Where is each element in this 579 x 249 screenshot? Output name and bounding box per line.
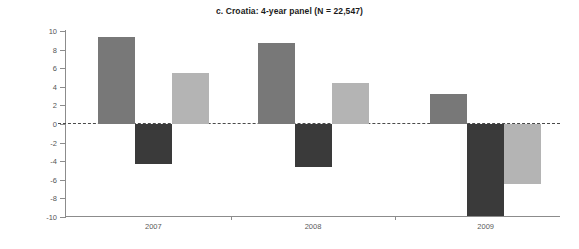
y-tick-mark bbox=[60, 87, 66, 88]
bar bbox=[430, 94, 467, 124]
chart-container: c. Croatia: 4-year panel (N = 22,547) Pe… bbox=[0, 0, 579, 249]
y-tick-label: -10 bbox=[30, 213, 57, 222]
y-tick-mark bbox=[60, 143, 66, 144]
bar bbox=[135, 124, 172, 164]
y-tick-mark bbox=[60, 124, 66, 125]
y-tick-label: 2 bbox=[30, 101, 57, 110]
y-tick-mark bbox=[60, 161, 66, 162]
y-tick-label: -8 bbox=[30, 194, 57, 203]
bar bbox=[172, 73, 209, 124]
y-tick-label: 6 bbox=[30, 64, 57, 73]
y-axis-title: Percent bbox=[0, 80, 1, 108]
x-tick-label: 2009 bbox=[477, 222, 494, 231]
x-tick-label: 2008 bbox=[305, 222, 322, 231]
bar bbox=[504, 124, 541, 184]
y-tick-mark bbox=[60, 180, 66, 181]
x-group-separator bbox=[231, 216, 232, 220]
y-tick-label: -2 bbox=[30, 138, 57, 147]
x-tick-label: 2007 bbox=[145, 222, 162, 231]
y-tick-label: -6 bbox=[30, 175, 57, 184]
x-axis-line bbox=[65, 216, 560, 217]
y-tick-mark bbox=[60, 31, 66, 32]
y-tick-mark bbox=[60, 217, 66, 218]
y-tick-label: 0 bbox=[30, 120, 57, 129]
y-tick-mark bbox=[60, 68, 66, 69]
y-tick-mark bbox=[60, 105, 66, 106]
y-tick-label: 8 bbox=[30, 45, 57, 54]
y-tick-label: 10 bbox=[30, 27, 57, 36]
y-tick-label: -4 bbox=[30, 157, 57, 166]
chart-title: c. Croatia: 4-year panel (N = 22,547) bbox=[0, 6, 579, 16]
y-tick-mark bbox=[60, 50, 66, 51]
x-group-separator bbox=[395, 216, 396, 220]
bar bbox=[258, 43, 295, 124]
bar bbox=[467, 124, 504, 216]
y-tick-label: 4 bbox=[30, 82, 57, 91]
bar bbox=[332, 83, 369, 124]
y-tick-mark bbox=[60, 198, 66, 199]
bar bbox=[295, 124, 332, 167]
bar bbox=[98, 37, 135, 124]
